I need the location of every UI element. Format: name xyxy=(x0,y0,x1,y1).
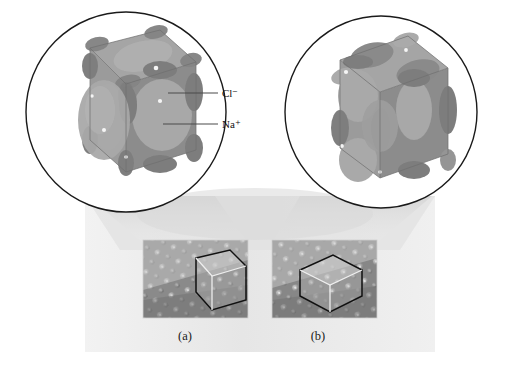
chloride-label: Cl⁻ xyxy=(222,87,238,99)
figure-canvas: (a) (b) xyxy=(0,0,508,369)
magnified-unit-cell-right xyxy=(285,16,477,208)
sodium-label: Na⁺ xyxy=(222,118,241,130)
panel-b-label: (b) xyxy=(311,329,326,343)
cube-wireframe-overlay-a xyxy=(196,250,246,310)
magnified-unit-cell-left xyxy=(26,12,226,212)
micrograph-b xyxy=(272,240,377,318)
panel-a-label: (a) xyxy=(178,329,192,343)
micrograph-a xyxy=(143,240,248,318)
